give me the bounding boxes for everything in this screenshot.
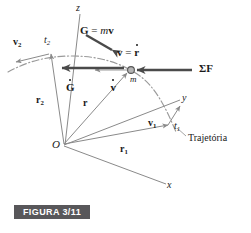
axis-label-z: z [76,3,80,13]
momentum-symbol-G: G [80,24,89,36]
momentum-equals: = [89,24,101,36]
label-t2: t2 [44,35,50,47]
particle-marker [128,67,135,74]
velocity-equals: = [123,46,135,58]
label-v2-sub: 2 [18,41,21,48]
label-trajectory: Trajetória [188,133,227,143]
figure-3-11-diagram [0,0,251,233]
label-v1-sub: 1 [153,122,156,129]
axis-group [64,14,180,184]
figure-caption-text: FIGURA 3/11 [23,207,81,217]
velocity-vector-v2 [16,54,49,62]
y-axis-line [64,100,180,145]
label-r2: r2 [36,95,44,107]
label-v2: v2 [13,37,21,49]
figure-caption-banner: FIGURA 3/11 [14,205,90,219]
label-acceleration-vdot: v [111,82,117,93]
x-axis-line [64,146,166,184]
label-t1: t1 [174,121,180,133]
origin-label-O: O [52,139,60,150]
axis-label-x: x [167,180,171,190]
momentum-arrow-G [86,35,112,50]
label-r-base: r [83,97,87,108]
label-sum-force: ΣF [199,63,213,74]
label-momentum-equation: G = mv [80,25,114,36]
velocity-vector-group [16,54,180,125]
label-velocity-equation: v = r [117,47,139,58]
label-r: r [83,98,87,108]
particle-label-m: m [130,75,137,84]
z-axis-line [65,14,80,145]
label-momentum-rate-Gdot: G [66,82,75,93]
label-v1: v1 [148,118,156,130]
momentum-velocity-v: v [108,24,114,36]
label-r1: r1 [120,144,128,156]
label-r1-sub: 1 [124,148,127,155]
label-r2-sub: 2 [40,99,43,106]
velocity-rdot-symbol: r [134,47,139,58]
axis-label-y: y [182,93,186,103]
label-t2-sub: 2 [47,39,50,46]
label-t1-sub: 1 [177,125,180,132]
